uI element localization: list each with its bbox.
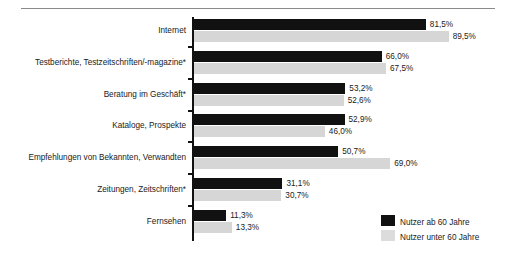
legend-label-senior: Nutzer ab 60 Jahre	[400, 218, 470, 227]
chart-legend: Nutzer ab 60 Jahre Nutzer unter 60 Jahre	[381, 212, 511, 242]
bar-rect-junior	[194, 126, 325, 137]
axis-tick	[188, 46, 193, 48]
bar-value-label: 30,7%	[281, 190, 308, 201]
bar-rect-senior	[194, 178, 282, 189]
bar-rect-junior	[194, 158, 390, 169]
axis-tick	[188, 141, 193, 143]
category-label: Internet	[6, 26, 186, 36]
axis-tick	[188, 173, 193, 175]
bar-value-label: 11,3%	[226, 210, 253, 221]
bar-rect-junior	[194, 222, 232, 233]
bar-value-label: 81,5%	[426, 19, 453, 30]
bar-rect-junior	[194, 31, 449, 42]
bar-value-label: 66,0%	[382, 51, 409, 62]
category-label: Testberichte, Testzeitschriften/-magazin…	[6, 58, 186, 68]
bar-rect-senior	[194, 210, 226, 221]
bar-value-label: 67,5%	[386, 63, 413, 74]
bar-value-label: 53,2%	[345, 83, 372, 94]
bar-rect-junior	[194, 95, 344, 106]
legend-swatch-senior-icon	[381, 215, 395, 226]
category-label: Empfehlungen von Bekannten, Verwandten	[6, 153, 186, 163]
bar-rect-junior	[194, 190, 281, 201]
bar-value-label: 89,5%	[449, 31, 476, 42]
bar-value-label: 52,9%	[345, 114, 372, 125]
bar-rect-senior	[194, 114, 345, 125]
bar-rect-junior	[194, 63, 386, 74]
bar-value-label: 46,0%	[325, 126, 352, 137]
legend-label-junior: Nutzer unter 60 Jahre	[400, 233, 479, 242]
bar-rect-senior	[194, 51, 382, 62]
axis-tick	[188, 205, 193, 207]
bar-value-label: 50,7%	[338, 146, 365, 157]
bar-chart: Internet81,5%89,5%Testberichte, Testzeit…	[0, 0, 511, 267]
category-label: Beratung im Geschäft*	[6, 90, 186, 100]
legend-swatch-junior-icon	[381, 230, 395, 241]
legend-item-senior: Nutzer ab 60 Jahre	[381, 212, 511, 227]
bar-rect-senior	[194, 146, 338, 157]
legend-item-junior: Nutzer unter 60 Jahre	[381, 227, 511, 242]
category-label: Fernsehen	[6, 217, 186, 227]
category-label: Kataloge, Prospekte	[6, 121, 186, 131]
bar-rect-senior	[194, 19, 426, 30]
axis-tick	[188, 78, 193, 80]
bar-value-label: 31,1%	[282, 178, 309, 189]
bar-rect-senior	[194, 83, 345, 94]
bar-value-label: 52,6%	[344, 95, 371, 106]
axis-tick	[188, 110, 193, 112]
category-label: Zeitungen, Zeitschriften*	[6, 185, 186, 195]
bar-value-label: 69,0%	[390, 158, 417, 169]
bar-value-label: 13,3%	[232, 222, 259, 233]
